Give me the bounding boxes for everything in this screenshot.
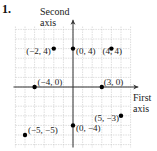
data-point — [119, 114, 123, 118]
data-point — [52, 46, 56, 50]
point-label: (4, 4) — [102, 46, 122, 56]
data-point — [71, 123, 75, 127]
data-point — [23, 133, 27, 137]
point-label: (−5, −5) — [28, 125, 58, 135]
point-label: (0, 4) — [76, 46, 96, 56]
data-point — [71, 46, 75, 50]
point-label: (5, −3) — [94, 113, 119, 123]
coordinate-plane: (−2, 4)(0, 4)(4, 4)(−4, 0)(3, 0)(5, −3)(… — [0, 0, 157, 151]
point-label: (−2, 4) — [26, 46, 51, 56]
data-point — [32, 85, 36, 89]
point-label: (−4, 0) — [38, 77, 63, 87]
point-label: (3, 0) — [104, 77, 124, 87]
point-label: (0, −4) — [76, 123, 101, 133]
